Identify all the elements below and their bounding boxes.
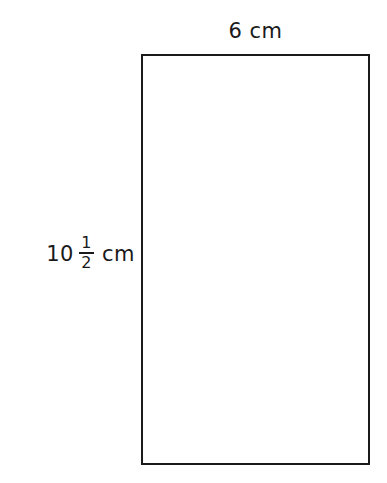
rectangle-shape — [141, 54, 370, 465]
height-whole-number: 10 — [46, 241, 74, 267]
height-fraction: 1 2 — [79, 235, 94, 272]
height-dimension-label: 10 1 2 cm — [46, 236, 135, 273]
width-dimension-label: 6 cm — [141, 18, 370, 44]
figure-canvas: 6 cm 10 1 2 cm — [0, 0, 387, 483]
fraction-numerator: 1 — [79, 235, 94, 252]
width-label-text: 6 cm — [228, 19, 282, 43]
fraction-denominator: 2 — [79, 254, 94, 271]
height-unit: cm — [102, 241, 135, 267]
